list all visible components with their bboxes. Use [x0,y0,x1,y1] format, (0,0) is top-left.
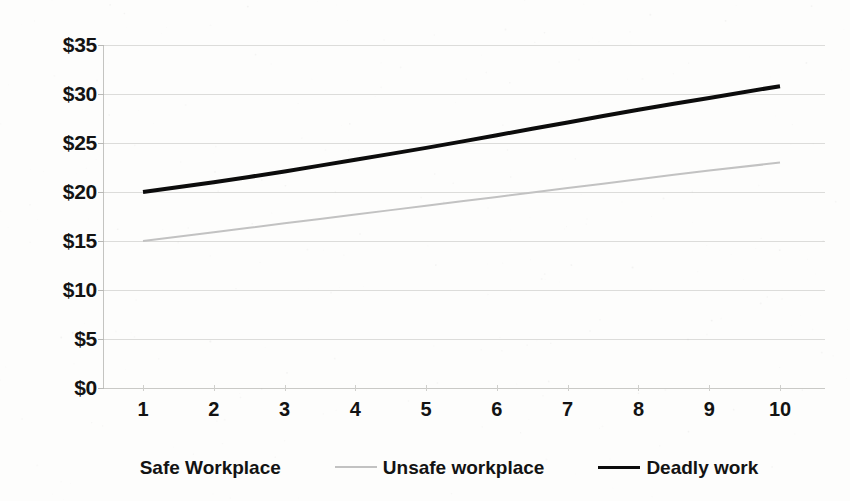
legend-line-icon-deadly-work [598,460,640,474]
legend-item-unsafe-workplace: Unsafe workplace [335,458,545,477]
series-plot [0,0,850,501]
legend-item-safe-workplace: Safe Workplace [92,458,281,477]
series-line-deadly-work [143,86,780,192]
legend-line-icon-safe-workplace [92,460,134,474]
legend-line-icon-unsafe-workplace [335,460,377,474]
legend-label-safe-workplace: Safe Workplace [140,458,281,477]
series-line-unsafe-workplace [143,163,780,241]
legend-label-unsafe-workplace: Unsafe workplace [383,458,545,477]
line-chart: $35$30$25$20$15$10$5$0 12345678910 Safe … [0,0,850,501]
legend-item-deadly-work: Deadly work [598,458,758,477]
legend-label-deadly-work: Deadly work [646,458,758,477]
chart-legend: Safe Workplace Unsafe workplace Deadly w… [0,452,850,482]
